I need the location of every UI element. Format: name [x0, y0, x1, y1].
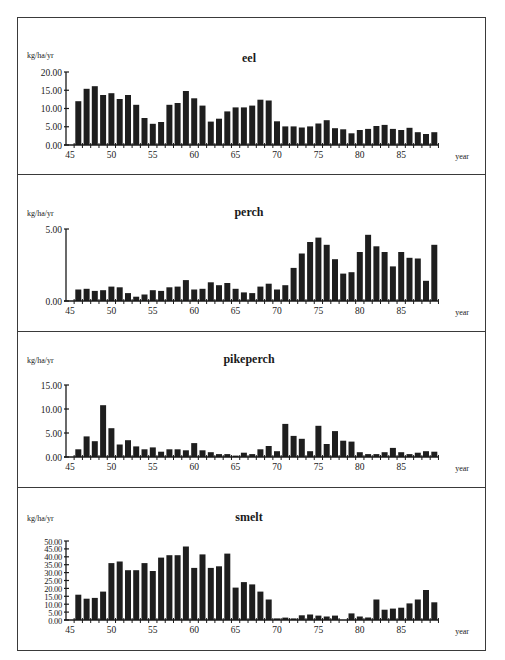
x-tick-label: 45 — [65, 306, 75, 316]
bar — [299, 254, 305, 302]
y-tick-label: 10.00 — [41, 104, 63, 114]
chart-smelt: kg/ha/yrsmelt0.005.0010.0015.0020.0025.0… — [17, 487, 486, 651]
bar — [390, 129, 396, 145]
bar — [84, 89, 90, 145]
bar — [216, 566, 222, 620]
x-axis-label: year — [455, 464, 469, 473]
x-axis-label: year — [455, 627, 469, 636]
bar — [299, 615, 305, 620]
bar — [332, 616, 338, 620]
bar — [282, 424, 288, 457]
bar — [75, 101, 81, 145]
y-tick-label: 5.00 — [45, 429, 62, 439]
y-axis-unit-label: kg/ha/yr — [27, 51, 54, 60]
bar — [216, 285, 222, 301]
bar — [84, 436, 90, 457]
bar — [117, 287, 123, 301]
bar — [266, 600, 272, 621]
bar — [142, 118, 148, 145]
bar — [158, 558, 164, 620]
bar — [249, 584, 255, 620]
bar — [282, 126, 288, 145]
x-axis-label: year — [455, 152, 469, 161]
bar — [324, 245, 330, 301]
bar — [133, 105, 139, 145]
bar — [75, 290, 81, 302]
bar — [340, 441, 346, 457]
bar — [390, 448, 396, 457]
x-tick-label: 85 — [396, 462, 406, 472]
bar — [200, 289, 206, 301]
x-tick-label: 65 — [231, 625, 241, 635]
bar-series — [75, 86, 437, 145]
bar — [175, 103, 181, 145]
bar — [382, 252, 388, 301]
bar — [398, 452, 404, 457]
x-tick-label: 50 — [107, 150, 117, 160]
x-tick-label: 80 — [355, 150, 365, 160]
bar — [373, 126, 379, 145]
bar — [150, 447, 156, 457]
bar — [100, 405, 106, 457]
chart-title: pikeperch — [223, 352, 274, 366]
bar — [332, 259, 338, 301]
bar — [291, 268, 297, 301]
bar — [407, 603, 413, 620]
bar — [365, 235, 371, 301]
bar — [274, 290, 280, 302]
bar — [108, 563, 114, 620]
bar — [208, 282, 214, 301]
bar — [349, 133, 355, 145]
bar — [92, 441, 98, 457]
bar — [431, 602, 437, 620]
bar — [84, 599, 90, 620]
x-tick-label: 60 — [189, 462, 199, 472]
bar — [398, 130, 404, 145]
bar — [357, 452, 363, 457]
bar — [125, 570, 131, 620]
bar — [431, 245, 437, 301]
chart-title: smelt — [235, 510, 262, 524]
bar — [315, 616, 321, 620]
bar — [100, 95, 106, 145]
bar-series — [75, 235, 437, 301]
bar — [125, 293, 131, 301]
bar — [125, 95, 131, 145]
bar — [166, 449, 172, 457]
bar — [307, 242, 313, 301]
bar — [324, 120, 330, 145]
x-tick-label: 65 — [231, 306, 241, 316]
x-tick-label: 60 — [189, 625, 199, 635]
bar — [241, 107, 247, 145]
bar — [233, 588, 239, 620]
x-tick-label: 60 — [189, 306, 199, 316]
y-axis-unit-label: kg/ha/yr — [27, 356, 54, 365]
bar — [142, 295, 148, 302]
bar — [423, 590, 429, 620]
bar — [175, 555, 181, 620]
bar — [274, 451, 280, 457]
x-tick-label: 85 — [396, 625, 406, 635]
bar — [191, 443, 197, 457]
x-tick-label: 75 — [314, 462, 324, 472]
bar — [200, 554, 206, 620]
bar — [150, 571, 156, 620]
bar — [224, 283, 230, 301]
x-tick-label: 75 — [314, 306, 324, 316]
bar — [315, 238, 321, 301]
bar — [266, 446, 272, 457]
bar — [175, 449, 181, 457]
bar — [183, 450, 189, 457]
bar — [257, 100, 263, 145]
bar — [423, 451, 429, 457]
bar — [291, 126, 297, 145]
bar — [349, 272, 355, 301]
bar — [365, 129, 371, 145]
bar — [75, 449, 81, 457]
chart-panel-perch: kg/ha/yrperch0.005.00455055606570758085y… — [17, 174, 486, 331]
bar — [117, 445, 123, 458]
bar — [200, 450, 206, 457]
bar — [92, 598, 98, 620]
bar — [382, 452, 388, 457]
chart-panel-pikeperch: kg/ha/yrpikeperch0.005.0010.0015.0045505… — [17, 331, 486, 487]
